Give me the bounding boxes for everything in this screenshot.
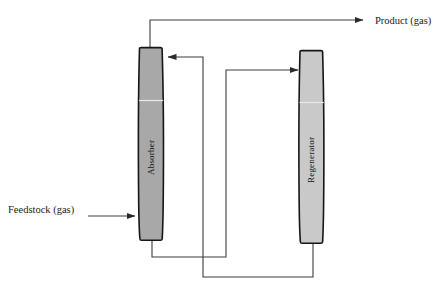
regenerator-vessel[interactable]: Regenerator (299, 51, 324, 244)
stream-lean-solvent-return (168, 57, 313, 277)
feedstock-gas-label: Feedstock (gas) (8, 204, 75, 216)
flow-diagram-canvas: Absorber Regenerator Product (gas) Feeds… (0, 0, 444, 291)
process-flow-diagram: Absorber Regenerator Product (gas) Feeds… (0, 0, 444, 291)
stream-rich-solvent-feed (152, 70, 298, 257)
product-gas-label: Product (gas) (375, 15, 432, 27)
rich-solvent-feed-pipe (152, 70, 298, 257)
absorber-label: Absorber (146, 140, 156, 175)
product-gas-pipe (150, 20, 363, 48)
stream-product-gas (150, 20, 363, 48)
regenerator-label: Regenerator (306, 137, 316, 183)
lean-solvent-return-pipe (168, 57, 313, 277)
absorber-vessel[interactable]: Absorber (138, 48, 163, 241)
